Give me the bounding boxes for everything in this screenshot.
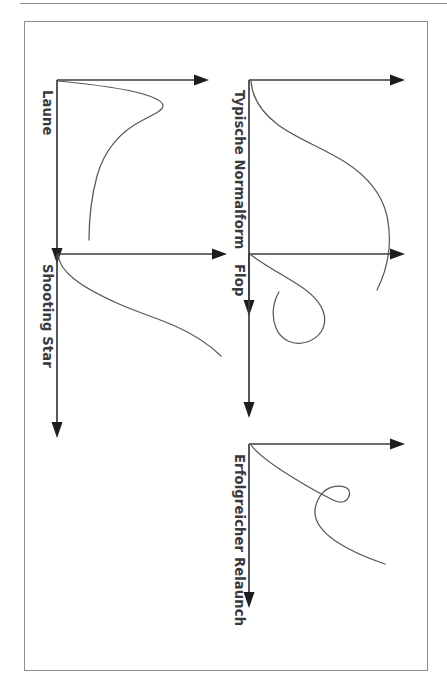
- y-axis-arrowhead-icon: [390, 439, 405, 450]
- curve-path: [58, 255, 221, 356]
- curve-path: [251, 445, 385, 564]
- chart-label-erfolgreicher-relaunch: Erfolgreicher Relaunch: [233, 454, 246, 626]
- chart-erfolgreicher-relaunch-plot: [231, 408, 409, 658]
- figure-rotor: Typische Normalform Flop: [25, 22, 427, 670]
- y-axis-arrowhead-icon: [212, 249, 227, 260]
- y-axis-arrowhead-icon: [390, 249, 405, 260]
- scanned-page: Typische Normalform Flop: [0, 0, 447, 691]
- x-axis-arrowhead-icon: [52, 422, 63, 438]
- chart-shooting-star-plot: [37, 218, 227, 468]
- y-axis-arrowhead-icon: [390, 75, 405, 86]
- curve-path: [58, 81, 163, 240]
- chart-label-laune: Laune: [41, 90, 54, 136]
- figure-frame: Typische Normalform Flop: [24, 21, 428, 671]
- chart-erfolgreicher-relaunch: Erfolgreicher Relaunch: [231, 408, 409, 658]
- chart-label-flop: Flop: [233, 264, 246, 296]
- chart-label-shooting-star: Shooting Star: [41, 264, 54, 368]
- chart-shooting-star: Shooting Star: [37, 218, 227, 468]
- y-axis-arrowhead-icon: [194, 75, 209, 86]
- curve-path: [251, 255, 325, 343]
- header-rule: [20, 3, 447, 4]
